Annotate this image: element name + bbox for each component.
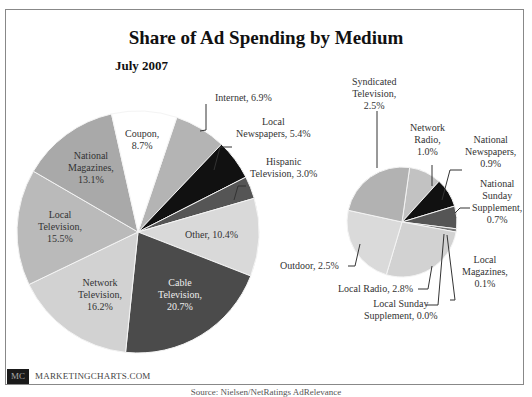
label-local-television: LocalTelevision,15.5% (38, 209, 82, 245)
label-national-newspapers: NationalNewspapers,0.9% (465, 134, 516, 170)
label-other: Other, 10.4% (185, 229, 238, 241)
source-note: Source: Nielsen/NetRatings AdRelevance (0, 387, 532, 397)
brand-text: MARKETINGCHARTS.COM (35, 371, 151, 381)
brand-footer: MC MARKETINGCHARTS.COM (7, 369, 151, 383)
label-internet: Internet, 6.9% (215, 92, 272, 104)
label-network-television: NetworkTelevision,16.2% (78, 277, 122, 313)
label-local-sunday-supplement: Local SundaySupplement, 0.0% (364, 298, 438, 322)
label-syndicated-television: SyndicatedTelevision,2.5% (352, 76, 396, 112)
label-network-radio: NetworkRadio,1.0% (410, 122, 445, 158)
brand-logo: MC (7, 369, 29, 384)
label-national-sunday-supplement: NationalSundaySupplement,0.7% (472, 178, 522, 226)
label-local-magazines: LocalMagazines,0.1% (462, 254, 508, 290)
label-local-newspapers: LocalNewspapers, 5.4% (236, 116, 311, 140)
other-breakdown-pie (347, 167, 457, 277)
label-hispanic-television: HispanicTelevision, 3.0% (250, 156, 317, 180)
label-cable-television: CableTelevision,20.7% (158, 277, 202, 313)
label-coupon: Coupon,8.7% (125, 128, 159, 152)
label-outdoor: Outdoor, 2.5% (280, 260, 339, 272)
label-national-magazines: NationalMagazines,13.1% (68, 150, 114, 186)
label-local-radio: Local Radio, 2.8% (338, 283, 413, 295)
